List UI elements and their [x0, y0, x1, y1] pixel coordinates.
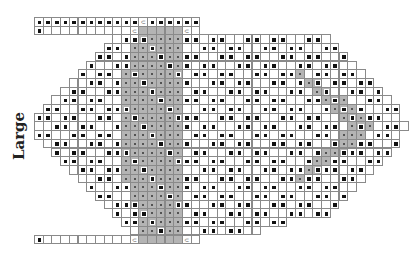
- filled-square-icon: [141, 211, 147, 217]
- filled-square-icon: [211, 185, 217, 191]
- filled-square-icon: [219, 72, 225, 78]
- dot-icon: [160, 91, 162, 93]
- dot-icon: [134, 186, 136, 188]
- chart-cell: [339, 191, 349, 201]
- filled-square-icon: [341, 159, 347, 165]
- filled-square-icon: [341, 72, 347, 78]
- dot-icon: [142, 91, 144, 93]
- dot-icon: [169, 82, 171, 84]
- filled-square-icon: [350, 115, 356, 121]
- dot-icon: [151, 73, 153, 75]
- filled-square-icon: [280, 80, 286, 86]
- filled-square-icon: [280, 115, 286, 121]
- filled-square-icon: [184, 80, 190, 86]
- filled-square-icon: [80, 107, 86, 113]
- filled-square-icon: [367, 80, 373, 86]
- filled-square-icon: [254, 211, 260, 217]
- filled-square-icon: [280, 54, 286, 60]
- dot-icon: [134, 178, 136, 180]
- filled-square-icon: [358, 150, 364, 156]
- dot-icon: [169, 160, 171, 162]
- filled-square-icon: [193, 37, 199, 43]
- dot-icon: [125, 160, 127, 162]
- filled-square-icon: [298, 185, 304, 191]
- filled-square-icon: [289, 194, 295, 200]
- dot-icon: [299, 178, 301, 180]
- dot-icon: [177, 152, 179, 154]
- filled-square-icon: [211, 107, 217, 113]
- filled-square-icon: [332, 124, 338, 130]
- filled-square-icon: [237, 63, 243, 69]
- filled-square-icon: [158, 228, 164, 234]
- filled-square-icon: [263, 46, 269, 52]
- filled-square-icon: [89, 107, 95, 113]
- filled-square-icon: [193, 150, 199, 156]
- filled-square-icon: [202, 150, 208, 156]
- dot-icon: [169, 125, 171, 127]
- filled-square-icon: [106, 107, 112, 113]
- filled-square-icon: [115, 89, 121, 95]
- size-label: Large: [10, 112, 28, 160]
- dot-icon: [151, 169, 153, 171]
- filled-square-icon: [315, 72, 321, 78]
- filled-square-icon: [167, 107, 173, 113]
- dot-icon: [134, 134, 136, 136]
- filled-square-icon: [289, 176, 295, 182]
- filled-square-icon: [298, 211, 304, 217]
- filled-square-icon: [324, 107, 330, 113]
- filled-square-icon: [97, 80, 103, 86]
- filled-square-icon: [315, 54, 321, 60]
- filled-square-icon: [106, 89, 112, 95]
- filled-square-icon: [245, 54, 251, 60]
- filled-square-icon: [158, 20, 164, 26]
- filled-square-icon: [37, 115, 43, 121]
- filled-square-icon: [63, 20, 69, 26]
- filled-square-icon: [115, 63, 121, 69]
- filled-square-icon: [289, 211, 295, 217]
- filled-square-icon: [211, 124, 217, 130]
- dot-icon: [134, 143, 136, 145]
- filled-square-icon: [132, 211, 138, 217]
- dot-icon: [134, 125, 136, 127]
- filled-square-icon: [228, 194, 234, 200]
- filled-square-icon: [245, 124, 251, 130]
- dot-icon: [125, 143, 127, 145]
- chart-cell: [191, 235, 201, 245]
- filled-square-icon: [245, 37, 251, 43]
- filled-square-icon: [202, 124, 208, 130]
- dot-icon: [169, 204, 171, 206]
- dot-icon: [351, 134, 353, 136]
- dot-icon: [160, 38, 162, 40]
- dot-icon: [125, 117, 127, 119]
- dot-icon: [142, 195, 144, 197]
- dot-icon: [142, 47, 144, 49]
- filled-square-icon: [71, 89, 77, 95]
- dot-icon: [334, 152, 336, 154]
- filled-square-icon: [54, 124, 60, 130]
- filled-square-icon: [89, 167, 95, 173]
- filled-square-icon: [184, 98, 190, 104]
- dot-icon: [151, 56, 153, 58]
- filled-square-icon: [358, 124, 364, 130]
- filled-square-icon: [54, 107, 60, 113]
- twist-icon: ⊂: [139, 18, 147, 26]
- filled-square-icon: [219, 37, 225, 43]
- dot-icon: [169, 134, 171, 136]
- filled-square-icon: [132, 159, 138, 165]
- filled-square-icon: [280, 202, 286, 208]
- filled-square-icon: [115, 124, 121, 130]
- filled-square-icon: [367, 159, 373, 165]
- filled-square-icon: [341, 194, 347, 200]
- filled-square-icon: [106, 194, 112, 200]
- filled-square-icon: [332, 63, 338, 69]
- filled-square-icon: [184, 141, 190, 147]
- dot-icon: [125, 91, 127, 93]
- filled-square-icon: [71, 115, 77, 121]
- filled-square-icon: [106, 20, 112, 26]
- dot-icon: [308, 82, 310, 84]
- filled-square-icon: [306, 159, 312, 165]
- filled-square-icon: [211, 167, 217, 173]
- dot-icon: [325, 160, 327, 162]
- dot-icon: [134, 108, 136, 110]
- filled-square-icon: [228, 133, 234, 139]
